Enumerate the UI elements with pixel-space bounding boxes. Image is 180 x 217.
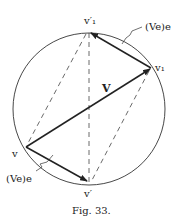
label-ve-top: (Ve)e — [145, 21, 171, 32]
velocity-circle-diagram: v′₁ (Ve)e v₁ V v (Ve)e v′ Fig. 33. — [0, 0, 180, 217]
figure-caption: Fig. 33. — [72, 205, 111, 216]
label-v: v — [11, 148, 18, 159]
leader-top — [122, 27, 142, 44]
vector-v1-to-v1prime — [91, 33, 151, 68]
label-ve-bottom: (Ve)e — [6, 173, 32, 184]
label-V: V — [101, 82, 111, 95]
vector-V — [26, 69, 150, 147]
label-v1: v₁ — [154, 62, 165, 73]
vector-v-to-vprime — [26, 147, 87, 181]
label-v1-prime: v′₁ — [83, 15, 96, 26]
label-v-prime: v′ — [83, 188, 93, 199]
